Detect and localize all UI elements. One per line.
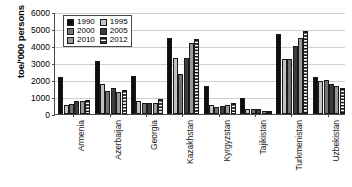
y-tick-label: 5000 [10, 26, 50, 35]
bar [262, 111, 267, 114]
bar [287, 59, 292, 114]
bar [256, 109, 261, 114]
bar [142, 103, 147, 114]
y-tick-mark [52, 64, 55, 65]
bar [194, 39, 199, 114]
bar-group [276, 13, 308, 114]
y-tick-mark [52, 115, 55, 116]
bar [167, 38, 172, 114]
bar [184, 58, 189, 114]
bar [240, 98, 245, 114]
bar [158, 99, 163, 114]
bar [303, 31, 308, 114]
bar [85, 100, 90, 114]
x-axis-label-kazakhstan: Kazakhstan [185, 120, 195, 164]
bar [298, 38, 303, 114]
x-axis-label-georgia: Georgia [149, 120, 159, 150]
bar [225, 105, 230, 114]
bar [136, 101, 141, 114]
x-axis-label-armenia: Armenia [76, 120, 86, 151]
x-axis-label-turkmenistan: Turkmenistan [294, 120, 304, 171]
x-tick-mark [291, 114, 292, 117]
bar [173, 58, 178, 114]
bar [313, 77, 318, 114]
legend-item-1990: 1990 [67, 18, 95, 26]
legend-item-2000: 2000 [67, 27, 95, 35]
legend-swatch-icon [100, 37, 107, 44]
y-tick-mark [52, 47, 55, 48]
bar [69, 104, 74, 114]
legend-label: 2005 [110, 27, 128, 35]
bar [324, 80, 329, 114]
bar [189, 43, 194, 114]
bar [131, 76, 136, 114]
y-tick-mark [52, 98, 55, 99]
legend-label: 1990 [77, 18, 95, 26]
bar [220, 106, 225, 114]
bar [329, 84, 334, 114]
bar [318, 81, 323, 114]
legend-swatch-icon [67, 19, 74, 26]
bar [95, 61, 100, 114]
y-tick-label: 3000 [10, 60, 50, 69]
legend-swatch-icon [100, 28, 107, 35]
bar [267, 111, 272, 114]
bar [105, 91, 110, 114]
y-tick-label: 6000 [10, 9, 50, 18]
x-tick-mark [146, 114, 147, 117]
x-axis-label-azerbaijan: Azerbaijan [113, 120, 123, 160]
y-tick-label: 4000 [10, 43, 50, 52]
bar-group [204, 13, 236, 114]
bar-chart: toe/'000 persons 60005000400030002000100… [0, 0, 352, 187]
y-tick-label: 1000 [10, 94, 50, 103]
x-axis-label-uzbekistan: Uzbekistan [331, 120, 341, 162]
y-tick-label: 2000 [10, 77, 50, 86]
bar [100, 84, 105, 114]
x-tick-mark [73, 114, 74, 117]
bar [231, 103, 236, 114]
x-axis-label-kyrgyzstan: Kyrgyzstan [222, 120, 232, 162]
legend-item-2010: 2010 [67, 36, 95, 44]
x-tick-mark [110, 114, 111, 117]
bar-group [167, 13, 199, 114]
legend-label: 2012 [110, 36, 128, 44]
bar [276, 34, 281, 114]
bar [74, 101, 79, 114]
bar [178, 74, 183, 114]
y-tick-mark [52, 13, 55, 14]
bar [122, 90, 127, 114]
bar [80, 101, 85, 114]
bar [245, 109, 250, 114]
x-tick-mark [182, 114, 183, 117]
x-tick-mark [219, 114, 220, 117]
bar [147, 103, 152, 114]
bar [340, 88, 345, 114]
legend-item-2005: 2005 [100, 27, 128, 35]
bar-group [313, 13, 345, 114]
bar [214, 107, 219, 114]
bar [334, 86, 339, 114]
bar-group [240, 13, 272, 114]
y-tick-mark [52, 81, 55, 82]
legend-label: 2010 [77, 36, 95, 44]
legend-swatch-icon [67, 28, 74, 35]
bar-group [131, 13, 163, 114]
bar [282, 59, 287, 114]
bar [116, 92, 121, 114]
bar [64, 105, 69, 114]
bar [58, 77, 63, 114]
bar [293, 46, 298, 114]
legend-item-1995: 1995 [100, 18, 128, 26]
y-tick-label: 0 [10, 111, 50, 120]
bar [204, 86, 209, 114]
bar [111, 88, 116, 114]
bar [153, 103, 158, 114]
y-tick-mark [52, 30, 55, 31]
legend-item-2012: 2012 [100, 36, 128, 44]
bar [209, 105, 214, 114]
x-axis-label-tajikistan: Tajikistan [258, 120, 268, 154]
legend-label: 1995 [110, 18, 128, 26]
legend-swatch-icon [67, 37, 74, 44]
x-tick-mark [255, 114, 256, 117]
legend-swatch-icon [100, 19, 107, 26]
